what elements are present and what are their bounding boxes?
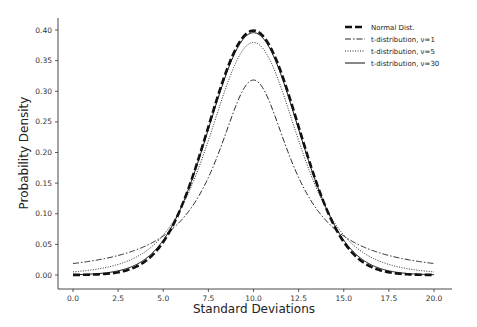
legend-label-t30: t-distribution, ν=30 [371, 60, 439, 68]
y-axis-ticks: 0.000.050.100.150.200.250.300.350.40 [35, 26, 58, 280]
curve-t1 [73, 80, 434, 263]
y-tick-label: 0.40 [35, 26, 52, 35]
x-tick-label: 17.5 [381, 294, 398, 303]
curve-t30 [73, 33, 434, 275]
y-tick-label: 0.30 [35, 87, 52, 96]
x-tick-label: 15.0 [335, 294, 352, 303]
y-axis-label: Probability Density [17, 97, 31, 210]
y-tick-label: 0.35 [35, 56, 52, 65]
y-tick-label: 0.05 [35, 240, 52, 249]
y-tick-label: 0.15 [35, 179, 52, 188]
legend-label-t5: t-distribution, ν=5 [371, 48, 435, 56]
legend-label-t1: t-distribution, ν=1 [371, 36, 435, 44]
chart: 0.000.050.100.150.200.250.300.350.40 0.0… [0, 0, 477, 327]
legend-label-normal: Normal Dist. [371, 24, 415, 32]
x-tick-label: 2.5 [112, 294, 124, 303]
y-tick-label: 0.25 [35, 117, 52, 126]
curve-t5 [73, 42, 434, 271]
y-tick-label: 0.00 [35, 271, 52, 280]
legend: Normal Dist. t-distribution, ν=1 t-distr… [345, 24, 439, 68]
x-tick-label: 5.0 [157, 294, 169, 303]
x-tick-label: 0.0 [67, 294, 79, 303]
x-axis-ticks: 0.02.55.07.510.012.515.017.520.0 [67, 289, 443, 303]
y-tick-label: 0.20 [35, 148, 52, 157]
y-tick-label: 0.10 [35, 209, 52, 218]
x-tick-label: 20.0 [426, 294, 443, 303]
x-axis-label: Standard Deviations [193, 302, 315, 316]
